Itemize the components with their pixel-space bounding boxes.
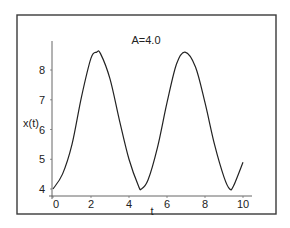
x-tick-label: 10 — [237, 198, 249, 210]
x-tick-label: 2 — [88, 198, 94, 210]
y-tick-label: 5 — [39, 153, 45, 165]
x-tick-label: 0 — [53, 198, 59, 210]
chart-title: A=4.0 — [131, 34, 160, 46]
y-tick-label: 6 — [39, 124, 45, 136]
y-tick-label: 8 — [39, 64, 45, 76]
y-axis-label: x(t) — [23, 117, 39, 129]
y-axis-tick-labels: 4 5 6 7 8 — [39, 64, 45, 195]
x-tick-label: 8 — [202, 198, 208, 210]
x-tick-label: 4 — [126, 198, 132, 210]
line-chart: A=4.0 4 5 6 7 8 0 2 4 6 8 10 t x(t) — [0, 0, 290, 228]
x-tick-label: 6 — [164, 198, 170, 210]
y-tick-label: 4 — [39, 183, 45, 195]
x-axis-label: t — [150, 205, 153, 217]
y-tick-label: 7 — [39, 94, 45, 106]
data-line — [53, 51, 243, 190]
